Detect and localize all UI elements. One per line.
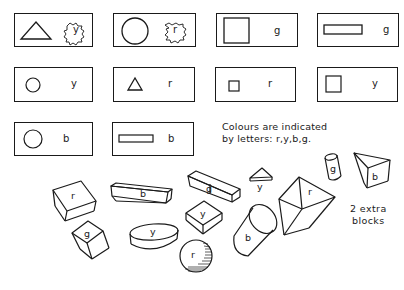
extra-blocks-note: 2 extra blocks <box>350 203 387 227</box>
svg-text:g: g <box>84 228 90 239</box>
svg-text:g: g <box>330 163 336 174</box>
svg-text:r: r <box>308 186 312 197</box>
block-sphere-red: r <box>180 240 212 272</box>
svg-text:b: b <box>245 232 251 243</box>
block-disc-yellow: y <box>130 222 179 249</box>
block-prism-blue: b <box>354 153 390 188</box>
block-bar-green: g <box>188 171 240 202</box>
block-small-prism-yellow: y <box>250 168 272 192</box>
block-bar-blue: b <box>111 183 172 203</box>
blocks-illustration: r b g y r <box>0 0 404 290</box>
extra-line-1: 2 extra <box>350 203 387 215</box>
block-small-cylinder-green: g <box>325 153 341 180</box>
block-cuboid-red: r <box>53 181 96 221</box>
svg-text:r: r <box>191 249 195 260</box>
svg-text:y: y <box>200 208 206 219</box>
svg-text:b: b <box>372 171 378 182</box>
extra-line-2: blocks <box>350 215 387 227</box>
svg-text:b: b <box>140 188 146 199</box>
block-cube-green: g <box>72 221 109 259</box>
block-flat-cuboid-yellow: y <box>186 201 222 234</box>
svg-text:y: y <box>150 226 156 237</box>
svg-text:y: y <box>257 181 263 192</box>
svg-text:r: r <box>71 190 75 201</box>
block-large-prism-red: r <box>279 177 335 235</box>
svg-text:g: g <box>206 183 212 194</box>
block-cylinder-blue: b <box>234 199 283 256</box>
